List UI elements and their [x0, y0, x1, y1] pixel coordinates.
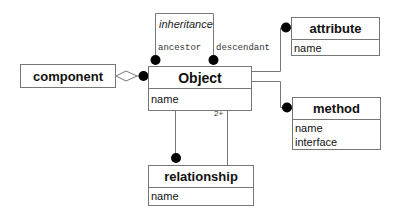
class-attribute[interactable]: attribute name: [291, 17, 380, 56]
descendant-role-label: descendant: [216, 43, 270, 53]
class-component-title: component: [21, 65, 115, 87]
class-object[interactable]: Object name: [148, 66, 252, 111]
class-object-title: Object: [149, 67, 251, 89]
class-relationship-title: relationship: [149, 166, 253, 188]
ancestor-role-label: ancestor: [158, 43, 201, 53]
class-relationship[interactable]: relationship name: [148, 165, 254, 206]
class-method[interactable]: method name interface: [292, 97, 381, 150]
class-object-attr-name: name: [149, 89, 251, 106]
class-attribute-attr-name: name: [292, 40, 379, 55]
aggregation-diamond-icon: [116, 71, 137, 81]
many-dot-method-icon: [282, 103, 292, 113]
class-component[interactable]: component: [20, 64, 116, 88]
class-attribute-title: attribute: [292, 18, 379, 40]
class-method-attr-name: name: [293, 120, 380, 135]
class-method-title: method: [293, 98, 380, 120]
many-dot-descendant-icon: [209, 55, 219, 65]
many-dot-attribute-icon: [281, 23, 291, 33]
object-method-link: [251, 82, 287, 108]
many-dot-component-icon: [139, 71, 149, 81]
inheritance-label: inheritance: [159, 18, 213, 30]
many-dot-ancestor-icon: [151, 55, 161, 65]
class-relationship-attr-name: name: [149, 188, 253, 203]
many-dot-relationship-icon: [171, 153, 181, 163]
class-method-attr-interface: interface: [293, 135, 380, 149]
